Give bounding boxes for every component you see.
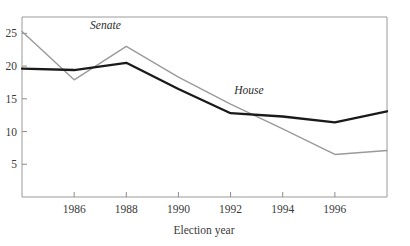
y-tick-label: 15 [6, 93, 18, 105]
chart-plot-area: 510152025 198619881990199219941996 Senat… [0, 0, 410, 246]
line-chart-figure: 510152025 198619881990199219941996 Senat… [0, 0, 410, 246]
y-tick-label: 20 [6, 60, 18, 72]
plot-frame [22, 17, 387, 197]
x-tick-label: 1996 [323, 203, 346, 215]
series-line-senate [22, 31, 387, 154]
x-axis-title: Election year [174, 224, 235, 237]
series-label-senate: Senate [90, 19, 121, 31]
data-series-group [22, 31, 387, 154]
x-tick-label: 1986 [63, 203, 86, 215]
x-tick-group: 198619881990199219941996 [63, 192, 347, 215]
x-tick-label: 1992 [219, 203, 242, 215]
y-tick-label: 5 [11, 158, 17, 170]
y-tick-label: 10 [6, 126, 18, 138]
y-tick-group: 510152025 [6, 27, 28, 170]
x-tick-label: 1990 [167, 203, 190, 215]
series-label-house: House [233, 84, 263, 96]
x-tick-label: 1988 [115, 203, 138, 215]
series-label-group: SenateHouse [90, 19, 263, 96]
series-line-house [22, 63, 387, 123]
y-tick-label: 25 [6, 27, 18, 39]
x-tick-label: 1994 [271, 203, 294, 215]
